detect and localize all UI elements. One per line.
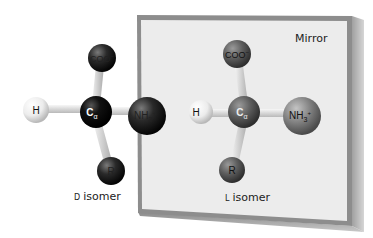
atom-r-label: R: [228, 165, 235, 176]
atom-c-alpha: [80, 96, 112, 128]
atom-r-label: R: [107, 166, 114, 177]
mirror-side-face: [352, 16, 364, 232]
atom-h-label: H: [192, 107, 199, 118]
d-isomer-caption: Disomer: [74, 190, 121, 203]
atom-h-label: H: [32, 105, 39, 116]
l-isomer-caption: Lisomer: [225, 191, 270, 204]
chirality-diagram: Mirror COO− H Cα NH3+ R Disomer COO− H C…: [0, 0, 373, 238]
mirror-label: Mirror: [295, 32, 328, 45]
atom-c-alpha: [228, 96, 260, 128]
